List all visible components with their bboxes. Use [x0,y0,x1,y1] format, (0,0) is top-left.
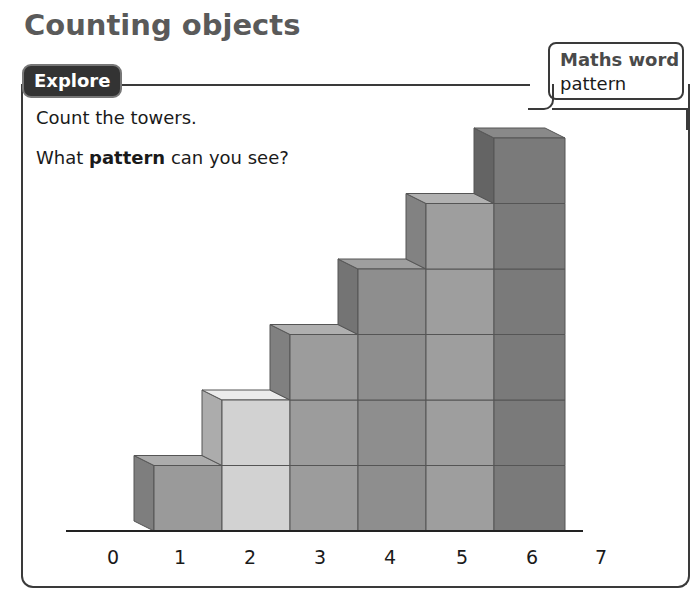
cube-front-face [494,138,565,204]
cube-side-face [474,128,494,204]
cube-front-face [290,400,358,466]
cube-front-face [358,269,426,335]
cube-front-face [426,204,494,270]
cube-front-face [494,335,565,401]
cube-side-face [202,390,222,466]
number-line-label: 6 [517,546,547,568]
number-line-label: 5 [447,546,477,568]
number-line-axis [66,530,583,532]
cube-side-face [406,194,426,270]
cube-front-face [426,335,494,401]
cube-front-face [426,466,494,532]
cube-front-face [358,466,426,532]
cube-front-face [494,400,565,466]
cube-front-face [222,400,290,466]
number-line-label: 7 [586,546,616,568]
number-line-label: 2 [235,546,265,568]
cube-side-face [134,456,154,532]
number-line-label: 0 [98,546,128,568]
cube-towers-illustration [0,0,700,609]
cube-front-face [290,335,358,401]
number-line-label: 1 [165,546,195,568]
cube-front-face [358,335,426,401]
cube-side-face [338,259,358,335]
cube-front-face [426,269,494,335]
number-line-label: 3 [305,546,335,568]
cube-front-face [426,400,494,466]
cube-front-face [154,466,222,532]
cube-front-face [358,400,426,466]
number-line-label: 4 [375,546,405,568]
cube-front-face [290,466,358,532]
cube-front-face [222,466,290,532]
cube-front-face [494,466,565,532]
cube-front-face [494,204,565,270]
cube-side-face [270,325,290,401]
cube-front-face [494,269,565,335]
